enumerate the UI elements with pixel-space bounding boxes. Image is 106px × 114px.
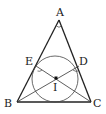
angle-mark-d: [73, 70, 78, 71]
label-i: I: [53, 81, 57, 94]
label-d: D: [79, 55, 88, 68]
segment-ce: [36, 66, 91, 102]
label-e: E: [25, 55, 33, 68]
label-a: A: [55, 6, 65, 19]
label-c: C: [93, 97, 101, 110]
triangle-diagram: A B C D E I: [0, 0, 106, 114]
angle-mark-e: [38, 70, 43, 71]
label-b: B: [4, 97, 12, 110]
incenter-dot: [55, 77, 58, 80]
